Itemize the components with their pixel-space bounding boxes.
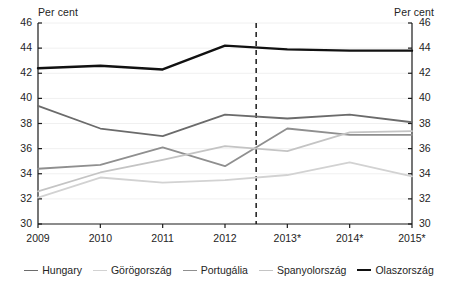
legend-line-icon bbox=[259, 270, 273, 271]
legend-item[interactable]: Olaszország bbox=[357, 264, 433, 276]
y-axis-tick-label-left: 38 bbox=[12, 117, 32, 129]
y-axis-tick-label-right: 32 bbox=[419, 192, 439, 204]
legend-item[interactable]: Görögország bbox=[93, 264, 172, 276]
y-axis-tick-label-left: 30 bbox=[12, 217, 32, 229]
line-chart: Per cent Per cent HungaryGörögországPort… bbox=[0, 0, 458, 284]
y-axis-tick-label-right: 36 bbox=[419, 142, 439, 154]
legend-line-icon bbox=[183, 270, 197, 271]
y-axis-tick-label-left: 44 bbox=[12, 41, 32, 53]
x-axis-tick-label: 2014* bbox=[327, 232, 373, 244]
legend-line-icon bbox=[93, 270, 107, 271]
y-axis-tick-label-left: 36 bbox=[12, 142, 32, 154]
legend-item-label: Portugália bbox=[201, 264, 248, 276]
series-line bbox=[38, 162, 412, 197]
x-axis-tick-label: 2011 bbox=[140, 232, 186, 244]
series-line bbox=[38, 131, 412, 191]
legend-item[interactable]: Portugália bbox=[183, 264, 248, 276]
y-axis-tick-label-right: 30 bbox=[419, 217, 439, 229]
y-axis-tick-label-right: 42 bbox=[419, 66, 439, 78]
y-axis-tick-label-left: 42 bbox=[12, 66, 32, 78]
x-axis-tick-label: 2009 bbox=[15, 232, 61, 244]
legend-item[interactable]: Spanyolország bbox=[259, 264, 346, 276]
legend-item[interactable]: Hungary bbox=[24, 264, 82, 276]
y-axis-tick-label-left: 34 bbox=[12, 167, 32, 179]
legend-item-label: Görögország bbox=[111, 264, 172, 276]
y-axis-tick-label-left: 32 bbox=[12, 192, 32, 204]
chart-legend: HungaryGörögországPortugáliaSpanyolorszá… bbox=[0, 264, 458, 276]
y-axis-tick-label-right: 44 bbox=[419, 41, 439, 53]
y-axis-tick-label-left: 46 bbox=[12, 16, 32, 28]
x-axis-tick-label: 2015* bbox=[389, 232, 435, 244]
y-axis-tick-label-right: 34 bbox=[419, 167, 439, 179]
y-axis-tick-label-right: 38 bbox=[419, 117, 439, 129]
x-axis-tick-label: 2012 bbox=[202, 232, 248, 244]
y-axis-tick-label-right: 46 bbox=[419, 16, 439, 28]
legend-item-label: Olaszország bbox=[375, 264, 433, 276]
legend-line-icon bbox=[357, 269, 371, 271]
legend-item-label: Hungary bbox=[42, 264, 82, 276]
series-line bbox=[38, 46, 412, 70]
legend-item-label: Spanyolország bbox=[277, 264, 346, 276]
y-axis-tick-label-left: 40 bbox=[12, 91, 32, 103]
legend-line-icon bbox=[24, 270, 38, 271]
x-axis-tick-label: 2010 bbox=[77, 232, 123, 244]
y-axis-tick-label-right: 40 bbox=[419, 91, 439, 103]
x-axis-tick-label: 2013* bbox=[264, 232, 310, 244]
